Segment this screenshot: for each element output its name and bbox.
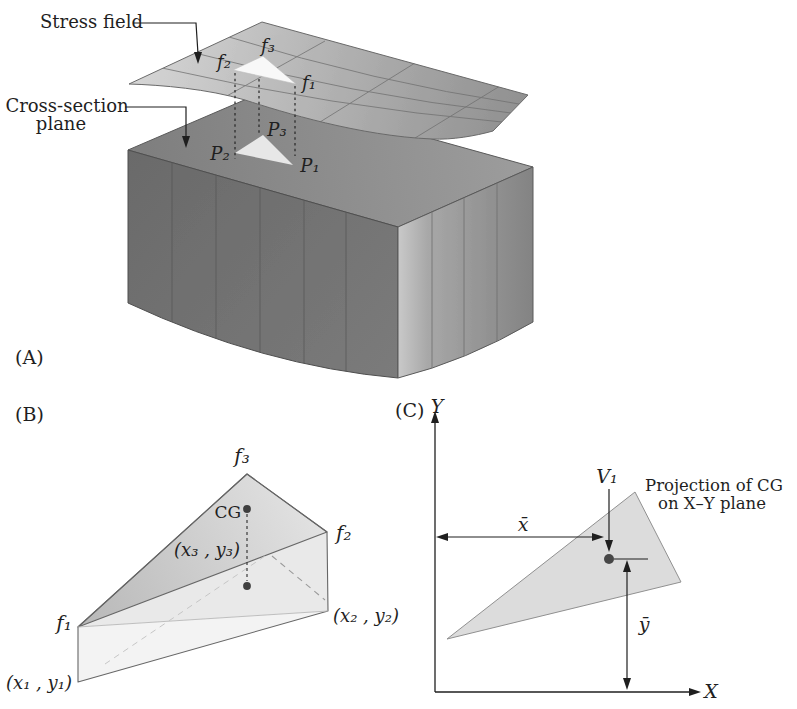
stress-field-label: Stress field — [40, 11, 143, 32]
label-ybar: ȳ — [638, 613, 650, 635]
label-xbar: x̄ — [518, 513, 529, 535]
panel-b-illustration: f₃ f₂ f₁ CG (x₃ , y₃) (x₂ , y₂) (x₁ , y₁… — [6, 403, 399, 693]
label-f1: f₁ — [300, 72, 316, 93]
label-p2: P₂ — [209, 143, 229, 164]
label-b-f2: f₂ — [334, 521, 351, 545]
panel-c-illustration: Y X V₁ x̄ ȳ Projection of CG on X–Y plan… — [395, 395, 783, 702]
cross-section-label-line2: plane — [36, 113, 86, 134]
label-f3: f₃ — [259, 35, 275, 56]
stress-sheet-surface — [129, 22, 528, 139]
x-axis-arrowhead-icon — [689, 688, 701, 696]
projection-caption-line1: Projection of CG — [645, 476, 783, 495]
label-b-f1: f₁ — [54, 611, 71, 635]
stress-field-sheet — [129, 22, 528, 139]
panel-a-label: (A) — [15, 346, 44, 368]
figure-canvas: Stress field Cross-section plane f₂ f₃ f… — [0, 0, 797, 709]
label-b-xy1: (x₁ , y₁) — [6, 672, 72, 693]
figure-page: Stress field Cross-section plane f₂ f₃ f… — [0, 0, 797, 709]
label-b-xy2: (x₂ , y₂) — [333, 605, 399, 626]
x-axis-label: X — [702, 680, 719, 702]
projection-caption-line2: on X–Y plane — [658, 494, 766, 513]
cg-dot — [243, 505, 251, 513]
cg-projected-dot — [243, 582, 251, 590]
label-p1: P₁ — [299, 155, 319, 176]
label-b-xy3: (x₃ , y₃) — [174, 539, 240, 560]
panel-b-label: (B) — [15, 403, 44, 425]
label-b-f3: f₃ — [232, 444, 249, 468]
label-b-cg: CG — [214, 502, 241, 522]
xbar-left-arrowhead-icon — [436, 533, 448, 541]
y-axis-label: Y — [431, 395, 446, 417]
label-v1: V₁ — [596, 465, 617, 487]
panel-a-illustration: Stress field Cross-section plane f₂ f₃ f… — [5, 11, 533, 390]
label-f2: f₂ — [215, 51, 231, 72]
label-p3: P₃ — [266, 119, 286, 140]
ybar-bottom-arrowhead-icon — [623, 678, 631, 690]
cg-projection-dot — [604, 554, 614, 564]
panel-c-label: (C) — [395, 399, 424, 421]
